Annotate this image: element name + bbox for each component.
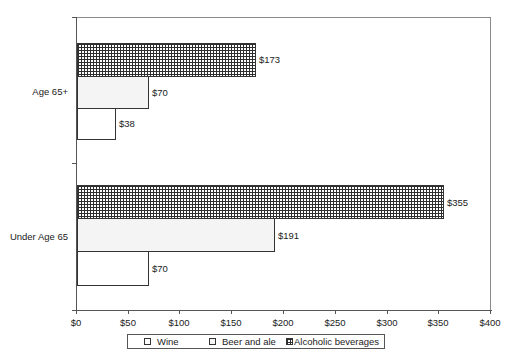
legend-label: Beer and ale <box>222 336 276 347</box>
bar-alcoholic-age-65-plus <box>77 43 256 77</box>
x-tick <box>231 310 232 314</box>
legend-label: Alcoholic beverages <box>294 336 379 347</box>
x-tick <box>438 310 439 314</box>
x-tick-label: $100 <box>168 317 189 328</box>
x-tick-label: $0 <box>71 317 82 328</box>
x-tick-label: $50 <box>120 317 136 328</box>
x-tick-label: $300 <box>376 317 397 328</box>
bar-beer-age-65-plus <box>77 76 149 109</box>
value-label: $355 <box>447 197 468 208</box>
x-tick-label: $150 <box>220 317 241 328</box>
x-tick-label: $200 <box>272 317 293 328</box>
bar-alcoholic-under-65 <box>77 185 444 219</box>
x-tick-label: $400 <box>479 317 500 328</box>
value-label: $70 <box>152 87 168 98</box>
value-label: $173 <box>259 54 280 65</box>
y-tick <box>72 17 76 18</box>
value-label: $191 <box>278 230 299 241</box>
legend: Wine Beer and ale Alcoholic beverages <box>127 334 385 349</box>
x-tick <box>76 310 77 314</box>
category-label-under-65: Under Age 65 <box>0 231 68 242</box>
y-tick <box>72 163 76 164</box>
x-tick <box>335 310 336 314</box>
category-label-age-65-plus: Age 65+ <box>0 86 68 97</box>
x-tick <box>179 310 180 314</box>
bar-wine-age-65-plus <box>77 108 116 140</box>
value-label: $38 <box>119 118 135 129</box>
bar-beer-under-65 <box>77 218 275 252</box>
beer-swatch-icon <box>209 338 216 345</box>
x-tick <box>490 310 491 314</box>
x-tick-label: $250 <box>324 317 345 328</box>
x-tick <box>283 310 284 314</box>
wine-swatch-icon <box>144 338 151 345</box>
x-tick-label: $350 <box>427 317 448 328</box>
x-tick <box>387 310 388 314</box>
alcoholic-swatch-icon <box>286 338 293 345</box>
x-tick <box>128 310 129 314</box>
bar-wine-under-65 <box>77 251 149 286</box>
value-label: $70 <box>152 263 168 274</box>
legend-item-alcoholic: Alcoholic beverages <box>286 336 379 347</box>
legend-item-wine: Wine <box>144 336 179 347</box>
x-axis <box>76 310 492 311</box>
legend-label: Wine <box>157 336 179 347</box>
legend-item-beer: Beer and ale <box>209 336 276 347</box>
